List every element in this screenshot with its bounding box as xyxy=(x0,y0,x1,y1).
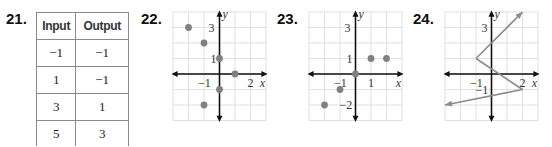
cell: −1 xyxy=(76,40,129,67)
header-output: Output xyxy=(76,13,129,40)
tick-label: 1 xyxy=(368,76,374,90)
tick-label: 1 xyxy=(347,52,353,66)
problem-number-22: 22. xyxy=(141,10,162,27)
data-point xyxy=(216,55,223,62)
data-point xyxy=(232,71,239,78)
cell: 1 xyxy=(37,67,76,94)
header-input: Input xyxy=(37,13,76,40)
cell: 1 xyxy=(76,94,129,121)
tick-label: 1 xyxy=(211,52,217,66)
data-point xyxy=(383,55,390,62)
tick-label: −2 xyxy=(340,98,353,112)
tick-label: −1 xyxy=(470,76,483,90)
graph-24: yx3−1−12 xyxy=(442,0,542,130)
x-axis-label: x xyxy=(395,76,402,90)
x-axis-label: x xyxy=(259,76,266,90)
cell: 5 xyxy=(37,121,76,147)
y-axis-label: y xyxy=(494,7,501,21)
tick-label: −1 xyxy=(198,76,211,90)
tick-label: 3 xyxy=(482,21,488,35)
problem-number-24: 24. xyxy=(413,10,434,27)
y-axis-label: y xyxy=(222,7,229,21)
cell: 3 xyxy=(37,94,76,121)
tick-label: 2 xyxy=(248,76,254,90)
problem-number-23: 23. xyxy=(277,10,298,27)
y-axis-label: y xyxy=(358,7,365,21)
cell: −1 xyxy=(37,40,76,67)
data-point xyxy=(368,55,375,62)
tick-label: 3 xyxy=(345,21,351,35)
input-output-table: Input Output −1−1 1−1 31 53 xyxy=(36,12,129,146)
data-point xyxy=(216,86,223,93)
arrowhead-icon xyxy=(445,101,452,107)
data-point xyxy=(321,102,328,109)
data-point xyxy=(201,40,208,47)
graph-22: yx31−12 xyxy=(170,0,270,130)
data-point xyxy=(185,24,192,31)
data-point xyxy=(201,102,208,109)
cell: 3 xyxy=(76,121,129,147)
data-point xyxy=(337,86,344,93)
data-point xyxy=(352,71,359,78)
x-axis-label: x xyxy=(531,76,538,90)
problem-number-21: 21. xyxy=(6,10,27,27)
cell: −1 xyxy=(76,67,129,94)
tick-label: 3 xyxy=(209,21,215,35)
graph-23: yx31−2−11 xyxy=(306,0,406,130)
